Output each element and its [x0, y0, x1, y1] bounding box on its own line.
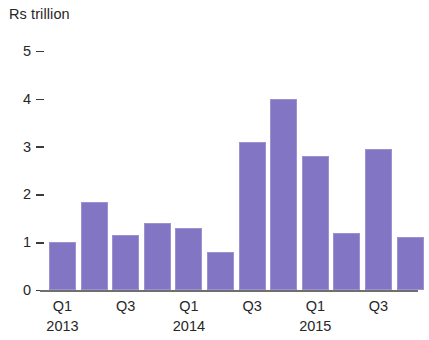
bar — [270, 99, 297, 290]
x-axis-quarter-label: Q3 — [357, 298, 401, 314]
bar — [397, 237, 424, 290]
bar — [81, 202, 108, 290]
x-axis-year-label: 2015 — [285, 318, 345, 334]
x-axis-quarter-label: Q1 — [41, 298, 85, 314]
bar — [365, 149, 392, 290]
bar — [175, 228, 202, 290]
x-axis-year-label: 2014 — [159, 318, 219, 334]
bar-chart: Rs trillion 543210 Q1Q3Q1Q3Q1Q3201320142… — [0, 0, 429, 340]
x-axis-quarter-label: Q1 — [167, 298, 211, 314]
x-axis-quarter-label: Q3 — [230, 298, 274, 314]
bar — [49, 242, 76, 290]
bar — [239, 142, 266, 290]
bar — [144, 223, 171, 290]
bar — [333, 233, 360, 290]
bar — [302, 156, 329, 290]
bar — [207, 252, 234, 290]
plot-area — [0, 0, 429, 290]
x-axis-line — [40, 290, 418, 292]
x-axis-quarter-label: Q3 — [104, 298, 148, 314]
x-axis-quarter-label: Q1 — [293, 298, 337, 314]
bar — [112, 235, 139, 290]
x-axis-year-label: 2013 — [33, 318, 93, 334]
